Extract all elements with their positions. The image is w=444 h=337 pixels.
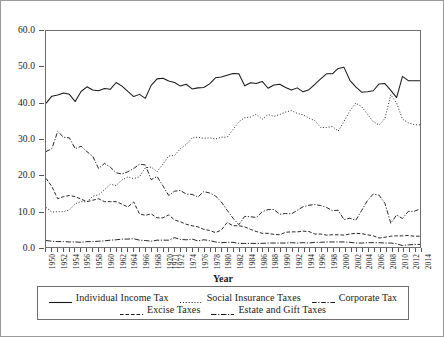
x-tick-mark (286, 248, 287, 252)
x-tick-mark (268, 248, 269, 252)
x-tick-label: 1952 (60, 254, 69, 269)
x-tick-label: 1996 (318, 254, 327, 269)
x-tick-mark (339, 248, 340, 252)
x-tick-mark (192, 248, 193, 252)
x-axis-title: Year (1, 273, 444, 284)
x-tick-mark (92, 248, 93, 252)
x-tick-mark (392, 248, 393, 252)
x-tick-mark (292, 248, 293, 252)
x-tick-mark (251, 248, 252, 252)
y-tick-mark (39, 139, 44, 140)
x-tick-mark (110, 248, 111, 252)
x-tick-mark (198, 248, 199, 252)
x-tick-label: 1984 (248, 254, 257, 269)
x-tick-label: 1978 (213, 254, 222, 269)
x-tick-label: 2006 (377, 254, 386, 269)
legend-label: Social Insurance Taxes (207, 292, 301, 303)
y-tick-label: 20.0 (18, 170, 35, 180)
x-tick-mark (362, 248, 363, 252)
y-tick-mark (39, 248, 44, 249)
x-tick-mark (315, 248, 316, 252)
x-tick-mark (127, 248, 128, 252)
x-tick-mark (145, 248, 146, 252)
y-tick-label: 10.0 (18, 207, 35, 217)
x-tick-label: 1966 (142, 254, 151, 269)
plot-lines (46, 31, 420, 247)
legend-item[interactable]: Social Insurance Taxes (180, 292, 301, 303)
x-tick-mark (239, 248, 240, 252)
legend-line-swatch (49, 293, 72, 302)
x-tick-label: 1968 (154, 254, 163, 269)
x-tick-mark (186, 248, 187, 252)
series-line (46, 67, 420, 103)
legend-line-swatch (180, 293, 203, 302)
x-tick-mark (280, 248, 281, 252)
x-tick-mark (104, 248, 105, 252)
series-line (46, 178, 420, 238)
x-tick-mark (210, 248, 211, 252)
x-tick-label: 2004 (365, 254, 374, 269)
y-tick-mark (39, 30, 44, 31)
legend-item[interactable]: Estate and Gift Taxes (211, 304, 326, 315)
y-tick-label: 50.0 (18, 61, 35, 71)
y-tick-mark (39, 103, 44, 104)
x-tick-mark (163, 248, 164, 252)
x-tick-mark (45, 248, 46, 252)
legend-line-swatch (120, 305, 143, 314)
y-tick-label: 60.0 (18, 25, 35, 35)
x-tick-mark (168, 248, 169, 252)
legend-label: Estate and Gift Taxes (238, 304, 326, 315)
x-tick-mark (221, 248, 222, 252)
x-tick-label: 1980 (224, 254, 233, 269)
legend-line-swatch (312, 293, 335, 302)
x-tick-mark (215, 248, 216, 252)
chart-legend: Individual Income TaxSocial Insurance Ta… (37, 286, 409, 320)
x-tick-label: 1962 (119, 254, 128, 269)
x-tick-mark (204, 248, 205, 252)
x-tick-label: 1976 (201, 254, 210, 269)
x-tick-mark (227, 248, 228, 252)
x-tick-mark (386, 248, 387, 252)
legend-item[interactable]: Corporate Tax (312, 292, 397, 303)
x-tick-mark (368, 248, 369, 252)
x-tick-mark (309, 248, 310, 252)
x-tick-mark (151, 248, 152, 252)
legend-item[interactable]: Excise Taxes (120, 304, 200, 315)
x-tick-label: 2008 (389, 254, 398, 269)
x-tick-mark (403, 248, 404, 252)
x-tick-mark (98, 248, 99, 252)
x-tick-mark (415, 248, 416, 252)
chart-figure: 0.010.020.030.040.050.060.0 195019521954… (0, 0, 444, 337)
x-tick-mark (321, 248, 322, 252)
x-tick-mark (374, 248, 375, 252)
legend-item[interactable]: Individual Income Tax (49, 292, 169, 303)
series-line (46, 95, 420, 212)
x-tick-mark (304, 248, 305, 252)
x-tick-mark (180, 248, 181, 252)
x-tick-mark (257, 248, 258, 252)
x-tick-label: 1988 (271, 254, 280, 269)
x-tick-label: 2000 (342, 254, 351, 269)
y-tick-mark (39, 175, 44, 176)
x-tick-mark (57, 248, 58, 252)
x-tick-mark (80, 248, 81, 252)
x-tick-label: 1960 (107, 254, 116, 269)
x-tick-label: 1972 (177, 254, 186, 269)
x-tick-label: 1950 (48, 254, 57, 269)
x-tick-label: 2010 (401, 254, 410, 269)
y-tick-mark (39, 66, 44, 67)
x-tick-mark (139, 248, 140, 252)
x-tick-mark (262, 248, 263, 252)
x-tick-mark (409, 248, 410, 252)
x-tick-mark (298, 248, 299, 252)
x-tick-label: 1998 (330, 254, 339, 269)
x-tick-mark (121, 248, 122, 252)
x-tick-label: 2014 (424, 254, 433, 269)
y-tick-label: 0.0 (23, 243, 35, 253)
series-line (46, 238, 420, 246)
x-tick-mark (133, 248, 134, 252)
x-tick-label: 1990 (283, 254, 292, 269)
x-tick-label: 1956 (83, 254, 92, 269)
x-tick-mark (351, 248, 352, 252)
x-tick-label: 1974 (189, 254, 198, 269)
